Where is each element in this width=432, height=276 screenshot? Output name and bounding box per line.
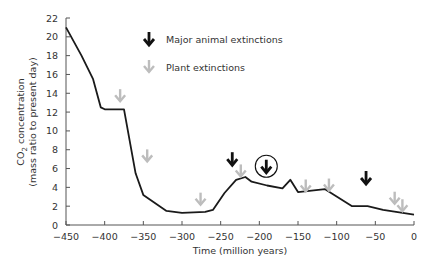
svg-text:−150: −150 <box>285 231 311 242</box>
grey-down-arrow-icon <box>144 60 154 72</box>
svg-text:14: 14 <box>46 88 58 99</box>
svg-text:12: 12 <box>46 107 58 118</box>
svg-text:22: 22 <box>46 13 58 24</box>
y-axis: 0246810121416182022 <box>46 13 70 231</box>
plant-extinction-arrow-icon <box>115 89 125 101</box>
co2-concentration-line <box>66 27 414 214</box>
svg-text:10: 10 <box>46 125 58 136</box>
plant-extinction-arrow-icon <box>301 179 311 191</box>
animal-extinction-arrow-icon <box>227 152 237 165</box>
svg-text:18: 18 <box>46 50 58 61</box>
svg-text:−400: −400 <box>92 231 118 242</box>
y-axis-title: CO2 concentration (mass ratio to present… <box>15 57 38 187</box>
plant-extinction-arrow-icon <box>196 193 206 205</box>
svg-text:−300: −300 <box>169 231 195 242</box>
plant-extinction-arrow-icon <box>236 164 246 176</box>
svg-text:−100: −100 <box>324 231 350 242</box>
x-axis-title: Time (million years) <box>192 245 288 256</box>
svg-text:2: 2 <box>52 201 58 212</box>
svg-text:Major animal extinctions: Major animal extinctions <box>166 34 283 45</box>
plant-extinction-arrow-icon <box>142 149 152 161</box>
svg-text:0: 0 <box>52 220 58 231</box>
x-axis: −450−400−350−300−250−200−150−100−500 <box>53 221 417 242</box>
black-down-arrow-icon <box>144 32 154 45</box>
svg-text:−250: −250 <box>208 231 234 242</box>
svg-text:4: 4 <box>52 182 58 193</box>
svg-text:−200: −200 <box>246 231 272 242</box>
legend: Major animal extinctions Plant extinctio… <box>144 32 283 73</box>
svg-text:6: 6 <box>52 163 58 174</box>
cropped-caption: … <box>60 268 380 274</box>
svg-text:0: 0 <box>411 231 417 242</box>
plant-extinction-arrow-icon <box>390 192 400 204</box>
svg-text:20: 20 <box>46 31 58 42</box>
svg-text:8: 8 <box>52 144 58 155</box>
svg-text:Plant extinctions: Plant extinctions <box>166 62 245 73</box>
animal-extinction-arrow-icon <box>255 155 277 177</box>
legend-item-plant: Plant extinctions <box>144 60 245 73</box>
extinction-markers <box>115 89 407 211</box>
co2-extinction-chart: 0246810121416182022 −450−400−350−300−250… <box>0 0 432 276</box>
svg-text:16: 16 <box>46 69 58 80</box>
svg-text:−350: −350 <box>130 231 156 242</box>
animal-extinction-arrow-icon <box>361 171 371 184</box>
legend-item-animal: Major animal extinctions <box>144 32 283 45</box>
svg-text:(mass ratio to present day): (mass ratio to present day) <box>27 57 38 187</box>
svg-text:−50: −50 <box>365 231 385 242</box>
plant-extinction-arrow-icon <box>397 199 407 211</box>
svg-text:−450: −450 <box>53 231 79 242</box>
